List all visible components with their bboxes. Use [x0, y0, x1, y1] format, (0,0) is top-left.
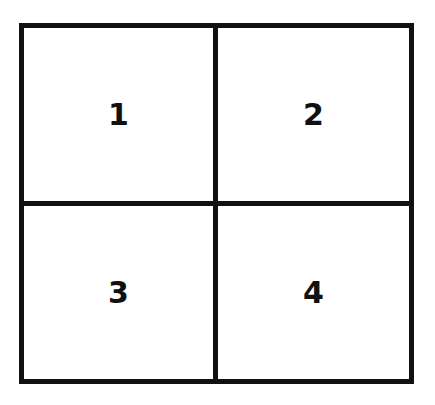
cell-4: 4: [218, 206, 409, 379]
cell-label: 3: [108, 275, 129, 310]
cell-label: 1: [108, 97, 129, 132]
cell-3: 3: [24, 206, 218, 379]
quadrant-grid: 1 2 3 4: [19, 23, 414, 384]
cell-2: 2: [218, 28, 409, 206]
cell-1: 1: [24, 28, 218, 206]
cell-label: 2: [303, 97, 324, 132]
cell-label: 4: [303, 275, 324, 310]
